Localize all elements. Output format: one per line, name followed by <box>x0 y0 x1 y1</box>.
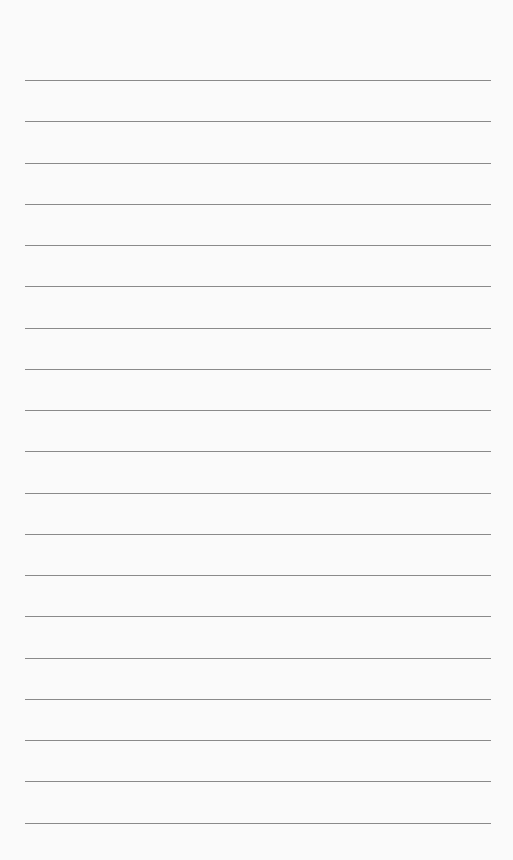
ruled-line <box>25 658 491 659</box>
ruled-line <box>25 245 491 246</box>
ruled-line <box>25 823 491 824</box>
ruled-line <box>25 699 491 700</box>
ruled-line <box>25 80 491 81</box>
ruled-line <box>25 369 491 370</box>
ruled-line <box>25 121 491 122</box>
ruled-line <box>25 493 491 494</box>
ruled-line <box>25 616 491 617</box>
ruled-line <box>25 575 491 576</box>
ruled-line <box>25 163 491 164</box>
ruled-line <box>25 286 491 287</box>
ruled-line <box>25 534 491 535</box>
ruled-line <box>25 781 491 782</box>
lined-paper <box>0 0 513 860</box>
ruled-line <box>25 328 491 329</box>
ruled-line <box>25 410 491 411</box>
ruled-line <box>25 451 491 452</box>
ruled-line <box>25 204 491 205</box>
ruled-line <box>25 740 491 741</box>
